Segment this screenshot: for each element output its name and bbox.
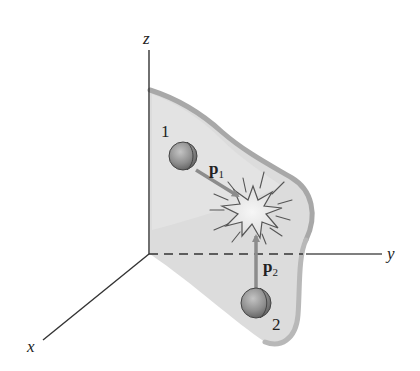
collision-diagram: z y x [0, 0, 420, 371]
x-axis [43, 254, 149, 340]
particle-2-label: 2 [272, 315, 281, 334]
collision-plane [150, 90, 312, 344]
z-axis-label: z [142, 29, 150, 48]
particle-1-label: 1 [161, 122, 170, 141]
diagram-svg: z y x [0, 0, 420, 371]
y-axis-label: y [385, 244, 395, 263]
x-axis-label: x [26, 337, 35, 356]
